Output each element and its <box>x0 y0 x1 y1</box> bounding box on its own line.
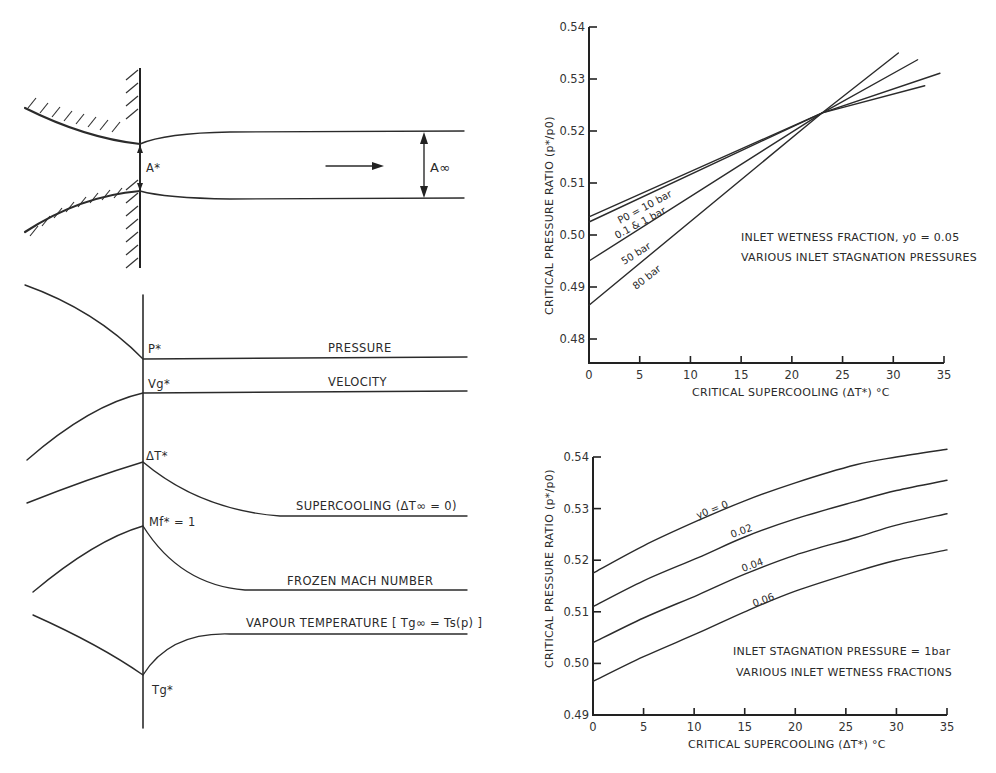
x-tick-label: 10 <box>687 720 702 734</box>
y-tick-label: 0.51 <box>563 605 589 619</box>
figure-canvas: A* A∞ P* PRESSURE Vg* VELOCITY ΔT* SUPER… <box>0 0 996 773</box>
chart-annotation-line-1: INLET STAGNATION PRESSURE = 1bar <box>733 645 951 658</box>
y-tick-label: 0.53 <box>563 502 589 516</box>
series-line <box>593 480 947 606</box>
y-tick-label: 0.49 <box>559 280 585 294</box>
y-tick-label: 0.53 <box>559 72 585 86</box>
y-tick-label: 0.49 <box>563 708 589 722</box>
arrowhead-right-icon <box>372 162 384 170</box>
arrowhead-down-icon <box>137 183 143 191</box>
series-line <box>593 550 947 682</box>
axis-lines <box>589 27 944 363</box>
x-tick-label: 30 <box>886 368 901 382</box>
series-line <box>593 514 947 643</box>
vapour-temperature-label: VAPOUR TEMPERATURE [ Tg∞ = Ts(p) ] <box>246 616 482 630</box>
y-tick-label: 0.51 <box>559 176 585 190</box>
velocity-profile <box>27 391 467 460</box>
chart-annotation-line-2: VARIOUS INLET WETNESS FRACTIONS <box>736 666 952 679</box>
velocity-label: VELOCITY <box>328 375 387 389</box>
chart-annotation-line-2: VARIOUS INLET STAGNATION PRESSURES <box>741 251 977 264</box>
chart-annotation-line-1: INLET WETNESS FRACTION, y0 = 0.05 <box>741 231 959 244</box>
series-label-50bar: 50 bar <box>619 240 653 267</box>
velocity-point-label: Vg* <box>148 377 170 391</box>
vapour-temp-point-label: Tg* <box>151 683 173 697</box>
lower-jet-boundary <box>140 191 464 199</box>
chart-inlet-pressures: 0.480.490.500.510.520.530.54051015202530… <box>543 20 977 399</box>
x-tick-label: 5 <box>640 720 647 734</box>
series-line <box>589 73 940 217</box>
throat-area-label: A* <box>146 161 160 175</box>
arrowhead-up-icon <box>137 145 143 153</box>
x-tick-label: 20 <box>788 720 803 734</box>
upper-nozzle-wall <box>25 108 140 144</box>
x-tick-label: 25 <box>839 720 854 734</box>
y-tick-label: 0.50 <box>563 656 589 670</box>
exit-area-label: A∞ <box>430 160 451 175</box>
chart-inlet-wetness: 0.490.500.510.520.530.5405101520253035 y… <box>543 449 954 751</box>
frozen-mach-label: FROZEN MACH NUMBER <box>287 574 433 588</box>
supercooling-point-label: ΔT* <box>146 449 168 463</box>
x-tick-label: 20 <box>785 368 800 382</box>
y-tick-label: 0.54 <box>563 450 589 464</box>
x-tick-label: 5 <box>636 368 643 382</box>
series-label-0.02: 0.02 <box>729 522 754 540</box>
x-tick-label: 15 <box>737 720 752 734</box>
y-tick-label: 0.48 <box>559 332 585 346</box>
x-tick-label: 15 <box>734 368 749 382</box>
wall-hatching <box>28 70 138 268</box>
series-label-y0-0: y0 = 0 <box>695 498 730 521</box>
upper-jet-boundary <box>140 131 464 144</box>
x-tick-label: 0 <box>589 720 596 734</box>
mach-point-label: Mf* = 1 <box>149 515 196 529</box>
pressure-point-label: P* <box>148 342 162 356</box>
supercooling-label: SUPERCOOLING (ΔT∞ = 0) <box>296 499 457 513</box>
series-line <box>593 449 947 573</box>
pressure-profile <box>25 285 467 359</box>
nozzle-schematic: A* A∞ P* PRESSURE Vg* VELOCITY ΔT* SUPER… <box>25 68 482 728</box>
x-tick-label: 0 <box>585 368 592 382</box>
x-axis-label: CRITICAL SUPERCOOLING (ΔT*) °C <box>688 738 886 751</box>
y-tick-label: 0.52 <box>563 553 589 567</box>
x-tick-label: 10 <box>683 368 698 382</box>
series-label-0.06: 0.06 <box>751 591 776 609</box>
y-axis-label: CRITICAL PRESSURE RATIO (p*/p0) <box>543 469 556 668</box>
series-line <box>589 53 898 305</box>
pressure-label: PRESSURE <box>328 341 392 355</box>
chart-series <box>589 53 940 305</box>
y-tick-label: 0.50 <box>559 228 585 242</box>
x-tick-label: 30 <box>889 720 904 734</box>
y-axis-label: CRITICAL PRESSURE RATIO (p*/p0) <box>543 116 556 315</box>
x-tick-label: 25 <box>835 368 850 382</box>
x-tick-label: 35 <box>937 368 952 382</box>
x-axis-label: CRITICAL SUPERCOOLING (ΔT*) °C <box>692 386 890 399</box>
y-tick-label: 0.54 <box>559 20 585 34</box>
x-tick-label: 35 <box>940 720 955 734</box>
y-tick-label: 0.52 <box>559 124 585 138</box>
arrowhead-down-icon <box>420 186 428 198</box>
arrowhead-up-icon <box>420 132 428 144</box>
